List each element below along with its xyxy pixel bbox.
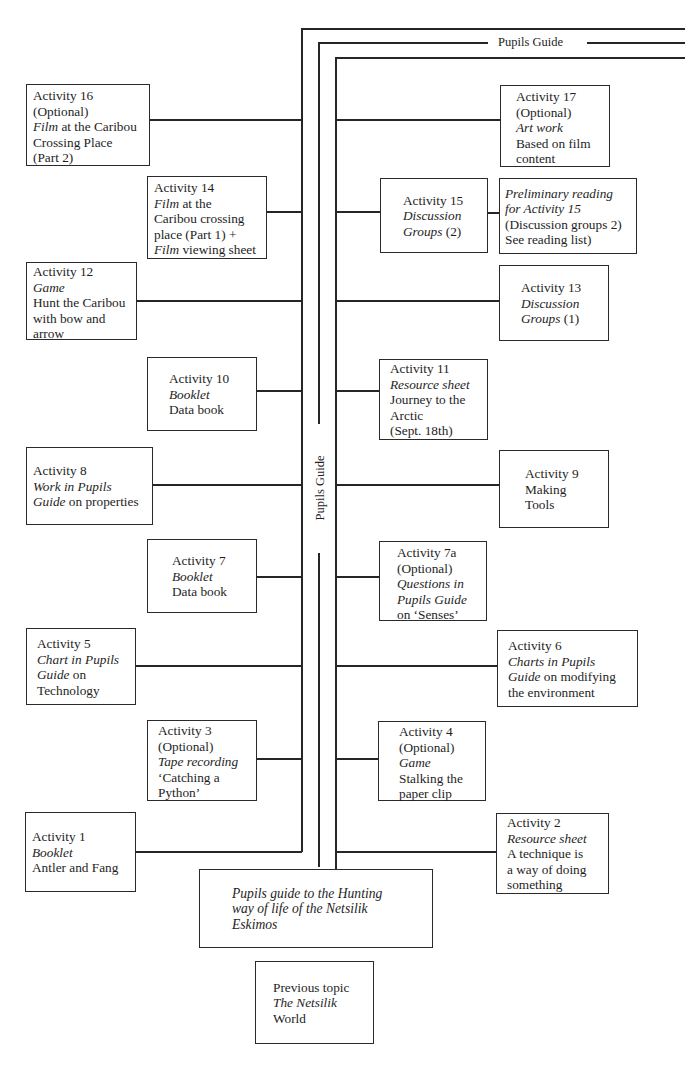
box-text-line: Film at the Caribou: [33, 119, 145, 135]
box-text-line: Eskimos: [232, 917, 428, 933]
text-run: (2): [442, 224, 461, 239]
activity-6-box[interactable]: Activity 6Charts in PupilsGuide on modif…: [497, 630, 638, 707]
box-text-line: Pupils guide to the Hunting: [232, 886, 428, 902]
activity-16-box[interactable]: Activity 16(Optional)Film at the Caribou…: [26, 84, 150, 166]
box-text-line: Guide on: [37, 667, 131, 683]
activity-12-box[interactable]: Activity 12GameHunt the Caribouwith bow …: [26, 262, 137, 340]
activity-11-box[interactable]: Activity 11Resource sheetJourney to theA…: [379, 359, 488, 440]
box-text-line: Questions in: [397, 576, 482, 592]
box-text-line: Activity 11: [390, 361, 483, 377]
text-run: Groups: [521, 311, 560, 326]
activity-3-box[interactable]: Activity 3(Optional)Tape recording‘Catch…: [147, 720, 257, 801]
text-run: Guide: [508, 669, 541, 684]
box-text-line: Booklet: [172, 569, 252, 585]
connector-activity-7a: [336, 576, 379, 578]
previous-topic-box[interactable]: Previous topicThe NetsilikWorld: [255, 961, 374, 1044]
box-text: Activity 4(Optional)GameStalking thepape…: [399, 724, 481, 802]
box-text-line: a way of doing: [507, 862, 604, 878]
box-text-line: Guide on properties: [33, 494, 148, 510]
box-text-line: Discussion: [521, 296, 604, 312]
connector-activity-3: [256, 758, 302, 760]
box-text-line: something: [507, 877, 604, 893]
box-text: Activity 3(Optional)Tape recording‘Catch…: [158, 723, 252, 801]
box-text-line: Film viewing sheet: [154, 242, 262, 258]
text-run: Groups: [403, 224, 442, 239]
connector-activity-13: [336, 300, 499, 302]
text-run: Guide: [37, 667, 70, 682]
connector-activity-9: [336, 484, 499, 486]
box-text-line: place (Part 1) +: [154, 227, 262, 243]
box-text: Activity 6Charts in PupilsGuide on modif…: [508, 638, 633, 700]
activity-13-box[interactable]: Activity 13DiscussionGroups (1): [499, 265, 609, 341]
box-text: Pupils guide to the Huntingway of life o…: [232, 886, 428, 933]
connector-activity-1: [135, 851, 302, 853]
activity-10-box[interactable]: Activity 10BookletData book: [147, 357, 257, 431]
middle-vertical-line-upper: [318, 42, 320, 424]
box-text-line: (Optional): [397, 561, 482, 577]
box-text-line: Activity 4: [399, 724, 481, 740]
activity-1-box[interactable]: Activity 1BookletAntler and Fang: [25, 812, 136, 892]
connector-activity-6: [336, 665, 497, 667]
box-text: Activity 1BookletAntler and Fang: [32, 829, 131, 876]
outer-top-line: [301, 28, 685, 30]
middle-vertical-line-lower: [318, 553, 320, 867]
box-text-line: with bow and: [33, 311, 132, 327]
box-text-line: Activity 14: [154, 180, 262, 196]
box-text-line: Activity 5: [37, 636, 131, 652]
activity-4-box[interactable]: Activity 4(Optional)GameStalking thepape…: [378, 721, 486, 801]
box-text-line: Game: [33, 280, 132, 296]
box-text-line: for Activity 15: [505, 201, 632, 217]
box-text-line: Activity 15: [403, 193, 483, 209]
box-text: Previous topicThe NetsilikWorld: [273, 980, 369, 1027]
activity-17-box[interactable]: Activity 17(Optional)Art workBased on fi…: [500, 85, 610, 167]
activity-2-box[interactable]: Activity 2Resource sheetA technique isa …: [496, 813, 609, 894]
box-text-line: (Part 2): [33, 150, 145, 166]
box-text-line: ‘Catching a: [158, 770, 252, 786]
box-text: Activity 11Resource sheetJourney to theA…: [390, 361, 483, 439]
box-text-line: Activity 7a: [397, 545, 482, 561]
connector-activity-8: [152, 484, 302, 486]
box-text-line: Activity 3: [158, 723, 252, 739]
box-text-line: Charts in Pupils: [508, 654, 633, 670]
box-text-line: Activity 10: [169, 371, 252, 387]
box-text: Activity 7a(Optional)Questions inPupils …: [397, 545, 482, 623]
box-text: Activity 14Film at theCaribou crossingpl…: [154, 180, 262, 258]
text-run: (1): [560, 311, 579, 326]
activity-7a-box[interactable]: Activity 7a(Optional)Questions inPupils …: [379, 541, 487, 621]
box-text-line: Activity 13: [521, 280, 604, 296]
pupils-guide-top-label: Pupils Guide: [494, 35, 567, 49]
box-text-line: Data book: [169, 402, 252, 418]
box-text-line: Antler and Fang: [32, 860, 131, 876]
connector-activity-2: [336, 851, 496, 853]
activity-8-box[interactable]: Activity 8Work in PupilsGuide on propert…: [26, 447, 153, 525]
text-run: on: [70, 667, 87, 682]
text-run: Guide: [33, 494, 66, 509]
box-text-line: Activity 2: [507, 815, 604, 831]
box-text: Activity 9MakingTools: [525, 466, 604, 513]
box-text-line: Work in Pupils: [33, 479, 148, 495]
connector-activity-5: [135, 665, 302, 667]
activity-14-box[interactable]: Activity 14Film at theCaribou crossingpl…: [147, 176, 267, 259]
pupils-guide-central-box[interactable]: Pupils guide to the Huntingway of life o…: [199, 869, 433, 948]
box-text-line: Art work: [516, 120, 605, 136]
box-text-line: (Optional): [33, 104, 145, 120]
activity-9-box[interactable]: Activity 9MakingTools: [499, 450, 609, 528]
preliminary-reading-box[interactable]: Preliminary readingfor Activity 15(Discu…: [499, 178, 637, 254]
activity-15-box[interactable]: Activity 15DiscussionGroups (2): [380, 178, 488, 253]
box-text-line: (Discussion groups 2): [505, 217, 632, 233]
box-text-line: the environment: [508, 685, 633, 701]
box-text-line: paper clip: [399, 786, 481, 802]
connector-activity-14: [267, 211, 302, 213]
activity-7-box[interactable]: Activity 7BookletData book: [147, 539, 257, 613]
connector-activity-10: [256, 390, 302, 392]
activity-5-box[interactable]: Activity 5Chart in PupilsGuide onTechnol…: [26, 628, 136, 705]
box-text-line: Making: [525, 482, 604, 498]
box-text-line: Data book: [172, 584, 252, 600]
box-text-line: Pupils Guide: [397, 592, 482, 608]
box-text-line: Python’: [158, 785, 252, 801]
box-text-line: Stalking the: [399, 771, 481, 787]
box-text-line: Discussion: [403, 208, 483, 224]
box-text: Activity 2Resource sheetA technique isa …: [507, 815, 604, 893]
box-text-line: Groups (1): [521, 311, 604, 327]
box-text-line: way of life of the Netsilik: [232, 901, 428, 917]
